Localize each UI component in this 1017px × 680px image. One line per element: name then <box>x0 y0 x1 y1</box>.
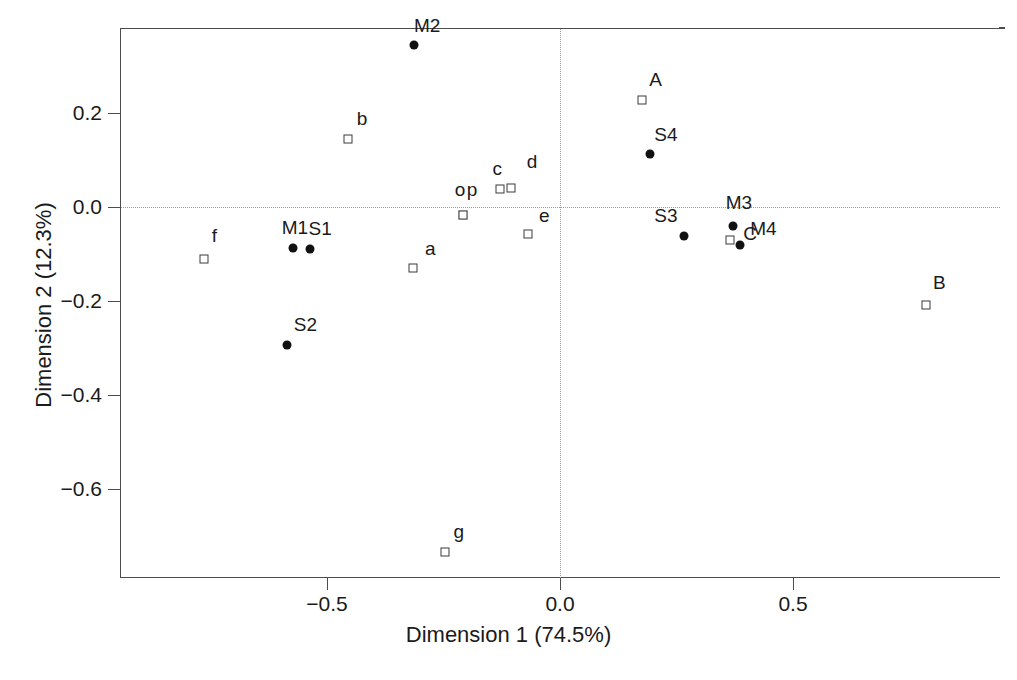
x-tick-label: −0.5 <box>306 592 347 616</box>
data-point-c[interactable] <box>496 185 505 194</box>
data-point-label-d: d <box>527 151 538 173</box>
data-point-B[interactable] <box>922 300 931 309</box>
data-point-label-S4: S4 <box>654 124 677 146</box>
data-point-p[interactable] <box>459 211 468 220</box>
y-tick-mark <box>108 207 120 208</box>
y-axis-title: Dimension 2 (12.3%) <box>31 25 57 585</box>
zero-line-vertical <box>560 29 561 578</box>
y-tick-mark <box>108 395 120 396</box>
x-tick-mark <box>560 578 561 590</box>
data-point-e[interactable] <box>524 230 533 239</box>
x-tick-label: 0.5 <box>778 592 807 616</box>
data-point-label-S3: S3 <box>654 205 677 227</box>
plot-frame-top-extension <box>999 27 1005 29</box>
data-point-label-f: f <box>212 225 217 247</box>
data-point-label-e: e <box>539 205 550 227</box>
data-point-d[interactable] <box>507 184 516 193</box>
data-point-M3[interactable] <box>728 222 737 231</box>
data-point-S2[interactable] <box>283 341 292 350</box>
data-point-label-g: g <box>454 521 465 543</box>
data-point-label-M1: M1 <box>282 217 308 239</box>
data-point-S1[interactable] <box>306 244 315 253</box>
data-point-A[interactable] <box>637 96 646 105</box>
data-point-label-C: C <box>743 223 757 245</box>
y-tick-mark <box>108 489 120 490</box>
data-point-M1[interactable] <box>288 244 297 253</box>
data-point-S3[interactable] <box>679 232 688 241</box>
data-point-label-M2: M2 <box>414 15 440 37</box>
data-point-b[interactable] <box>343 134 352 143</box>
data-point-f[interactable] <box>200 254 209 263</box>
data-point-label-a: a <box>425 238 436 260</box>
y-tick-mark <box>108 113 120 114</box>
x-tick-label: 0.0 <box>545 592 574 616</box>
x-tick-mark <box>327 578 328 590</box>
data-point-label-S1: S1 <box>309 218 332 240</box>
data-point-label-o: o <box>455 179 466 201</box>
y-tick-mark <box>108 301 120 302</box>
data-point-S4[interactable] <box>645 149 654 158</box>
x-tick-mark <box>793 578 794 590</box>
data-point-label-S2: S2 <box>294 314 317 336</box>
data-point-label-A: A <box>649 69 662 91</box>
data-point-a[interactable] <box>409 264 418 273</box>
data-point-label-c: c <box>493 158 503 180</box>
data-point-label-b: b <box>357 108 368 130</box>
data-point-M2[interactable] <box>410 40 419 49</box>
chart-canvas: 0.20.0−0.2−0.4−0.6 −0.50.00.5 M2S4M1S1S2… <box>0 0 1017 680</box>
x-axis-title: Dimension 1 (74.5%) <box>0 622 1017 648</box>
data-point-label-p: p <box>467 179 478 201</box>
data-point-C[interactable] <box>726 235 735 244</box>
data-point-label-M3: M3 <box>726 192 752 214</box>
data-point-label-B: B <box>933 272 946 294</box>
data-point-g[interactable] <box>440 547 449 556</box>
